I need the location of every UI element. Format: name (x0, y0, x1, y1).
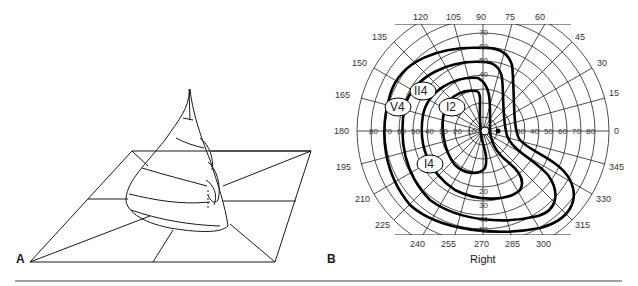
figure-canvas: 80 70 60 50 40 30 20 10 30 40 50 60 70 8… (0, 0, 638, 286)
svg-text:60: 60 (535, 12, 545, 22)
svg-text:285: 285 (505, 239, 520, 249)
svg-text:105: 105 (446, 12, 461, 22)
eye-caption: Right (470, 253, 496, 265)
svg-text:30: 30 (516, 127, 525, 136)
svg-text:10: 10 (467, 127, 476, 136)
label-i2: I2 (446, 100, 456, 114)
svg-text:15: 15 (609, 88, 619, 98)
svg-text:75: 75 (505, 12, 515, 22)
svg-text:70: 70 (383, 127, 392, 136)
svg-text:210: 210 (355, 194, 370, 204)
svg-text:195: 195 (336, 162, 351, 172)
svg-text:225: 225 (375, 220, 390, 230)
svg-text:50: 50 (411, 127, 420, 136)
svg-text:315: 315 (575, 220, 590, 230)
svg-text:70: 70 (479, 28, 488, 37)
svg-text:255: 255 (441, 239, 456, 249)
svg-text:50: 50 (479, 56, 488, 65)
svg-text:20: 20 (479, 187, 488, 196)
svg-text:40: 40 (479, 70, 488, 79)
svg-text:30: 30 (479, 201, 488, 210)
svg-text:60: 60 (558, 127, 567, 136)
svg-text:30: 30 (439, 127, 448, 136)
svg-text:330: 330 (596, 194, 611, 204)
svg-text:0: 0 (614, 126, 619, 136)
svg-text:70: 70 (572, 127, 581, 136)
svg-text:240: 240 (410, 239, 425, 249)
fixation-point (481, 127, 489, 135)
svg-text:20: 20 (453, 127, 462, 136)
svg-text:300: 300 (536, 239, 551, 249)
hill-of-vision-3d (30, 89, 311, 262)
svg-text:80: 80 (369, 127, 378, 136)
svg-text:50: 50 (479, 225, 488, 234)
svg-text:60: 60 (479, 42, 488, 51)
svg-text:270: 270 (474, 239, 489, 249)
svg-text:60: 60 (397, 127, 406, 136)
panel-label-b: B (327, 252, 336, 266)
svg-text:150: 150 (352, 58, 367, 68)
label-i4: I4 (424, 157, 434, 171)
label-ii4: II4 (414, 84, 428, 98)
svg-text:40: 40 (530, 127, 539, 136)
svg-text:180: 180 (334, 126, 349, 136)
svg-text:45: 45 (575, 32, 585, 42)
svg-text:165: 165 (335, 90, 350, 100)
svg-text:135: 135 (372, 32, 387, 42)
label-v4: V4 (390, 100, 405, 114)
blind-spot-marker (496, 129, 501, 134)
svg-text:40: 40 (479, 215, 488, 224)
svg-text:80: 80 (586, 127, 595, 136)
svg-text:40: 40 (425, 127, 434, 136)
svg-text:50: 50 (544, 127, 553, 136)
svg-text:90: 90 (476, 12, 486, 22)
svg-text:30: 30 (597, 58, 607, 68)
panel-label-a: A (16, 252, 25, 266)
svg-text:345: 345 (609, 162, 624, 172)
svg-text:120: 120 (413, 12, 428, 22)
